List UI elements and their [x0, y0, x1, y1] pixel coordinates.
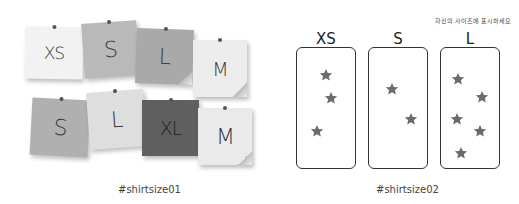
caption-shirtsize02: #shirtsize02: [376, 184, 439, 195]
size-box-l[interactable]: [440, 47, 500, 169]
size-label-xs: XS: [296, 30, 356, 48]
pin-icon: [59, 97, 63, 101]
size-box-s[interactable]: [368, 47, 428, 169]
note-letter: M: [212, 58, 227, 80]
star-icon: [473, 124, 487, 138]
pin-icon: [112, 89, 116, 93]
note-letter: L: [110, 107, 123, 133]
instruction-text: 자신의 사이즈에 표시하세요: [435, 16, 511, 25]
pin-icon: [223, 106, 227, 110]
note-letter: XS: [44, 43, 65, 63]
sticky-note-xl: XL: [142, 100, 199, 156]
note-letter: S: [53, 115, 67, 141]
caption-shirtsize01: #shirtsize01: [118, 184, 181, 195]
sticky-note-s: S: [30, 98, 91, 158]
pin-icon: [163, 27, 167, 31]
pin-icon: [52, 25, 56, 29]
star-icon: [454, 146, 468, 160]
note-letter: S: [103, 37, 118, 63]
star-icon: [310, 124, 324, 138]
star-icon: [475, 90, 489, 104]
pin-icon: [169, 98, 173, 102]
star-icon: [385, 82, 399, 96]
sticky-note-m: M: [198, 108, 252, 165]
star-icon: [451, 72, 465, 86]
star-icon: [324, 91, 338, 105]
size-label-s: S: [368, 30, 428, 48]
page-curl: [233, 83, 247, 97]
note-letter: XL: [160, 117, 182, 139]
note-letter: M: [216, 124, 234, 149]
pin-icon: [218, 38, 222, 42]
star-icon: [319, 68, 333, 82]
note-letter: L: [158, 44, 170, 69]
sticky-note-s: S: [81, 20, 140, 79]
size-label-l: L: [440, 30, 500, 48]
size-box-xs[interactable]: [296, 47, 356, 169]
sticky-note-l: L: [86, 89, 147, 150]
sticky-note-l: L: [135, 28, 194, 85]
page-curl: [238, 151, 252, 165]
sticky-note-m: M: [193, 40, 247, 97]
sticky-note-xs: XS: [25, 26, 84, 79]
pin-icon: [106, 20, 110, 24]
page-curl: [178, 70, 192, 84]
star-icon: [404, 112, 418, 126]
star-icon: [450, 112, 464, 126]
